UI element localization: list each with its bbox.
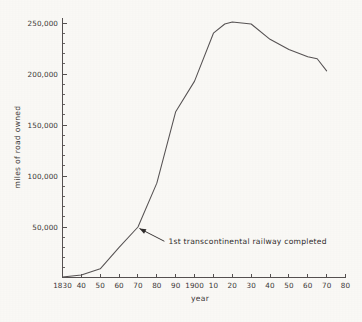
x-tick-label: 1900 <box>185 281 204 290</box>
y-axis-ticks <box>63 23 67 268</box>
x-tick-label: 90 <box>171 281 181 290</box>
y-tick-label: 150,000 <box>28 121 59 130</box>
y-tick-label: 200,000 <box>28 70 59 79</box>
x-tick-label: 70 <box>133 281 143 290</box>
x-tick-label: 10 <box>209 281 219 290</box>
x-tick-label: 60 <box>303 281 313 290</box>
x-tick-label: 50 <box>284 281 294 290</box>
annotation-label-transcontinental-railway: 1st transcontinental railway completed <box>168 237 326 246</box>
x-tick-label: 40 <box>265 281 275 290</box>
x-tick-label: 80 <box>152 281 162 290</box>
x-axis-ticks <box>63 274 346 278</box>
line-chart-canvas: 50,000100,000150,000200,000250,000 18304… <box>0 0 362 322</box>
x-tick-label: 70 <box>322 281 332 290</box>
x-tick-label: 20 <box>228 281 238 290</box>
x-tick-label: 60 <box>114 281 124 290</box>
x-axis-title: year <box>191 294 210 303</box>
y-axis-title: miles of road owned <box>13 106 22 189</box>
x-tick-label: 1830 <box>53 281 72 290</box>
chart-figure: 50,000100,000150,000200,000250,000 18304… <box>0 0 362 322</box>
y-tick-label: 250,000 <box>28 19 59 28</box>
annotation-arrow-head <box>139 229 146 234</box>
annotation-group: 1st transcontinental railway completed <box>139 229 326 247</box>
x-tick-label: 40 <box>77 281 87 290</box>
x-tick-label: 50 <box>96 281 106 290</box>
x-tick-label: 30 <box>246 281 256 290</box>
x-axis-tick-labels: 183040506070809019001020304050607080 <box>53 281 350 290</box>
y-tick-label: 100,000 <box>28 172 59 181</box>
y-axis-tick-labels: 50,000100,000150,000200,000250,000 <box>28 19 59 232</box>
y-tick-label: 50,000 <box>32 223 58 232</box>
x-tick-label: 80 <box>341 281 351 290</box>
